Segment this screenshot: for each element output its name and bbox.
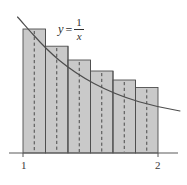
fraction-numerator: 1: [74, 17, 84, 29]
fraction-one-over-x: 1 x: [74, 17, 84, 42]
axis-ticks: [23, 153, 158, 157]
x-axis-tick-label-1: 1: [21, 160, 27, 171]
equation-equals-sign: =: [65, 24, 75, 36]
figure-canvas: [0, 0, 187, 185]
curve-equation-label: y = 1 x: [58, 17, 84, 42]
x-axis-tick-label-2: 2: [155, 160, 161, 171]
fraction-denominator: x: [75, 30, 84, 42]
riemann-sum-figure: y = 1 x 1 2: [0, 0, 187, 185]
